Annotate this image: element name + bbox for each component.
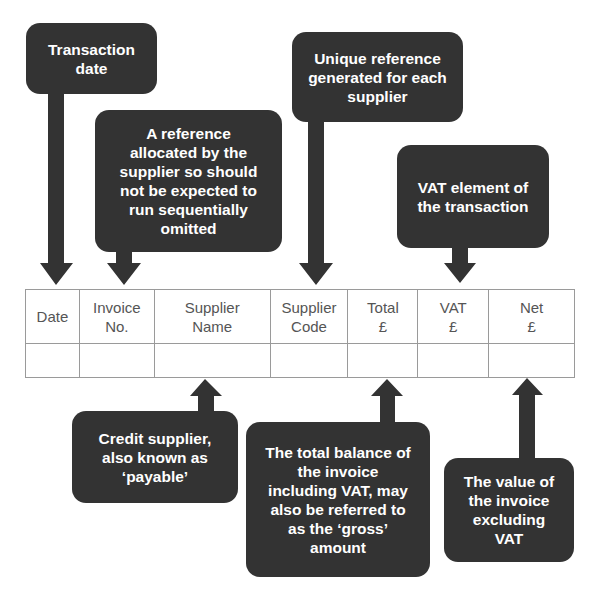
column-header-supplier-code: Supplier Code xyxy=(270,290,348,344)
column-header-invoice-no: Invoice No. xyxy=(79,290,154,344)
table-header-row: Date Invoice No. Supplier Name Supplier … xyxy=(26,290,575,344)
table-cell xyxy=(26,344,80,378)
callout-total: The total balance of the invoice includi… xyxy=(246,422,430,577)
arrow-up-net xyxy=(512,378,543,459)
arrow-down-vat xyxy=(444,247,476,283)
callout-invoice-no: A reference allocated by the supplier so… xyxy=(95,110,282,252)
callout-supplier-name: Credit supplier, also known as ‘payable’ xyxy=(72,411,238,503)
table-cell xyxy=(154,344,270,378)
arrow-down-date xyxy=(40,93,73,285)
arrow-up-supplier-name xyxy=(190,379,222,412)
table-cell xyxy=(418,344,489,378)
table-row xyxy=(26,344,575,378)
column-header-vat: VAT £ xyxy=(418,290,489,344)
callout-supplier-code: Unique reference generated for each supp… xyxy=(292,32,463,122)
column-header-supplier-name: Supplier Name xyxy=(154,290,270,344)
arrow-down-invoice xyxy=(107,251,141,285)
table-cell xyxy=(270,344,348,378)
column-header-total: Total £ xyxy=(348,290,418,344)
arrow-down-supplier-code xyxy=(299,121,333,285)
column-header-date: Date xyxy=(26,290,80,344)
table-cell xyxy=(489,344,575,378)
table-cell xyxy=(79,344,154,378)
purchases-day-book-table: Date Invoice No. Supplier Name Supplier … xyxy=(25,289,575,378)
column-header-net: Net £ xyxy=(489,290,575,344)
arrow-up-total xyxy=(371,379,403,423)
callout-vat: VAT element of the transaction xyxy=(397,145,549,248)
callout-transaction-date: Transaction date xyxy=(26,23,157,94)
table-cell xyxy=(348,344,418,378)
callout-net: The value of the invoice excluding VAT xyxy=(444,458,574,562)
